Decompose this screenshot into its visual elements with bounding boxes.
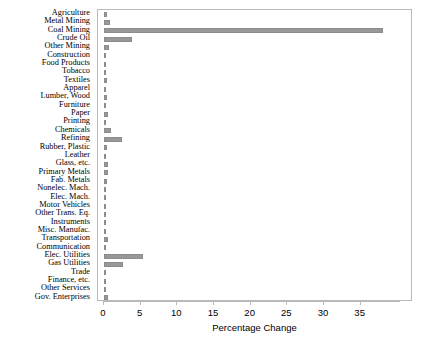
x-axis-tick-label: 15	[208, 307, 219, 318]
bar-item	[104, 179, 107, 184]
bar-item	[104, 128, 111, 133]
bar-rect	[104, 128, 111, 133]
bar-item	[104, 70, 106, 75]
bar-rect	[104, 279, 106, 284]
bar-item	[104, 245, 106, 250]
x-axis-tick-mark	[250, 301, 251, 305]
x-axis: Percentage Change 05101520253035	[97, 301, 412, 345]
bar-rect	[104, 62, 106, 67]
bar-item	[104, 95, 107, 100]
x-axis-tick-mark	[103, 301, 104, 305]
bar-rect	[104, 237, 108, 242]
bar-rect	[104, 112, 108, 117]
bar-item	[104, 229, 106, 234]
bar-item	[104, 78, 107, 83]
bar-item	[104, 45, 109, 50]
bar-rect	[104, 162, 108, 167]
bar-item	[104, 103, 106, 108]
bar-rect	[104, 103, 106, 108]
bar-item	[104, 187, 106, 192]
bar-rect	[104, 137, 122, 142]
bar-rect	[104, 254, 143, 259]
bar-rect	[104, 245, 106, 250]
bar-item	[104, 154, 106, 159]
bar-item	[104, 254, 143, 259]
bar-rect	[104, 262, 123, 267]
bar-rect	[104, 229, 106, 234]
bar-item	[104, 37, 132, 42]
bar-rect	[104, 53, 106, 58]
bar-rect	[104, 70, 106, 75]
bar-rect	[104, 87, 106, 92]
x-axis-tick-label: 0	[100, 307, 105, 318]
bar-item	[104, 120, 106, 125]
bar-rect	[104, 12, 107, 17]
bar-series	[98, 10, 411, 300]
bar-rect	[104, 212, 106, 217]
x-axis-tick-mark	[176, 301, 177, 305]
chart-figure: AgricultureMetal MiningCoal MiningCrude …	[0, 0, 423, 345]
x-axis-tick-mark	[286, 301, 287, 305]
bar-rect	[104, 170, 108, 175]
x-axis-tick-mark	[323, 301, 324, 305]
bar-rect	[104, 179, 107, 184]
bar-item	[104, 53, 106, 58]
x-axis-tick-mark	[140, 301, 141, 305]
bar-rect	[104, 28, 383, 33]
bar-rect	[104, 295, 108, 300]
x-axis-tick-label: 20	[244, 307, 255, 318]
bar-rect	[104, 95, 107, 100]
bar-item	[104, 295, 108, 300]
bar-item	[104, 20, 110, 25]
bar-rect	[104, 187, 106, 192]
bar-rect	[104, 37, 132, 42]
bar-item	[104, 237, 108, 242]
bar-item	[104, 220, 106, 225]
x-axis-tick-label: 35	[354, 307, 365, 318]
bar-item	[104, 162, 108, 167]
bar-item	[104, 87, 106, 92]
bar-rect	[104, 270, 106, 275]
x-axis-tick-label: 10	[171, 307, 182, 318]
x-axis-title: Percentage Change	[97, 322, 412, 333]
x-axis-tick-mark	[213, 301, 214, 305]
bar-rect	[104, 287, 106, 292]
bar-item	[104, 145, 107, 150]
x-axis-tick-label: 5	[137, 307, 142, 318]
y-axis-tick-label: Gov. Enterprises	[0, 293, 92, 301]
bar-rect	[104, 45, 109, 50]
bar-rect	[104, 20, 110, 25]
x-axis-tick-label: 25	[281, 307, 292, 318]
bar-rect	[104, 195, 106, 200]
bar-item	[104, 12, 107, 17]
bar-item	[104, 287, 106, 292]
x-axis-line	[103, 301, 400, 302]
bar-item	[104, 137, 122, 142]
bar-rect	[104, 204, 106, 209]
bar-item	[104, 212, 106, 217]
plot-area	[97, 9, 412, 301]
x-axis-tick-label: 30	[318, 307, 329, 318]
bar-item	[104, 112, 108, 117]
bar-rect	[104, 120, 106, 125]
bar-rect	[104, 154, 106, 159]
bar-item	[104, 170, 108, 175]
bar-item	[104, 270, 106, 275]
bar-item	[104, 28, 383, 33]
bar-item	[104, 262, 123, 267]
x-axis-tick-mark	[360, 301, 361, 305]
bar-item	[104, 62, 106, 67]
bar-item	[104, 195, 106, 200]
bar-rect	[104, 220, 106, 225]
bar-item	[104, 204, 106, 209]
bar-rect	[104, 145, 107, 150]
bar-item	[104, 279, 106, 284]
bar-rect	[104, 78, 107, 83]
y-axis-category-labels: AgricultureMetal MiningCoal MiningCrude …	[0, 9, 92, 301]
